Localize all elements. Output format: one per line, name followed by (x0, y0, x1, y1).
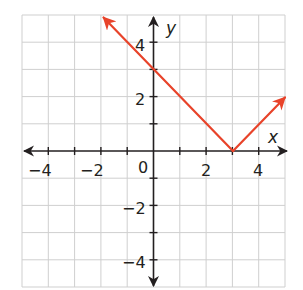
origin-label: 0 (138, 158, 148, 177)
y-tick-label-4: 4 (135, 36, 145, 55)
y-tick-label-2: 2 (135, 90, 145, 109)
x-axis-label: x (267, 127, 279, 147)
x-tick-label-neg2: −2 (80, 161, 104, 180)
coordinate-plane: x y −4 −2 0 2 4 4 2 −2 −4 (0, 0, 303, 290)
y-tick-label-neg2: −2 (122, 199, 146, 218)
x-tick-label-4: 4 (253, 161, 263, 180)
y-axis-label: y (165, 18, 177, 38)
absolute-value-graph (104, 18, 286, 152)
x-tick-label-2: 2 (201, 161, 211, 180)
x-tick-label-neg4: −4 (28, 161, 52, 180)
y-tick-label-neg4: −4 (122, 253, 146, 272)
axes (24, 17, 287, 286)
